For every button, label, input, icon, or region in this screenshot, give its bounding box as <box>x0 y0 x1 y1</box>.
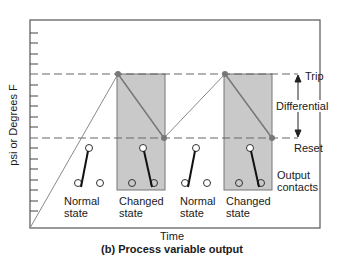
trip-point-2 <box>222 71 228 77</box>
state-label-1: Normal state <box>64 195 99 219</box>
differential-label: Differential <box>276 100 328 112</box>
state-label-3: Normal state <box>180 195 215 219</box>
trip-label: Trip <box>305 70 324 82</box>
reset-point-2 <box>269 135 275 141</box>
changed-state-region-1 <box>117 74 165 190</box>
reset-point-1 <box>161 135 167 141</box>
state-label-2: Changed state <box>119 195 164 219</box>
y-axis-ticks <box>30 33 38 211</box>
changed-state-region-2 <box>224 74 272 190</box>
state-label-4: Changed state <box>226 195 271 219</box>
reset-label: Reset <box>294 142 323 154</box>
contact-switch-normal-2 <box>182 145 211 188</box>
output-contacts-label: Output contacts <box>277 169 318 193</box>
trip-point-1 <box>115 71 121 77</box>
process-variable-diagram <box>0 0 344 262</box>
x-axis-label: Time <box>0 230 344 242</box>
figure-caption: (b) Process variable output <box>0 243 344 255</box>
y-axis-label: psi or Degrees F <box>7 84 19 165</box>
contact-switch-normal-1 <box>75 145 104 188</box>
